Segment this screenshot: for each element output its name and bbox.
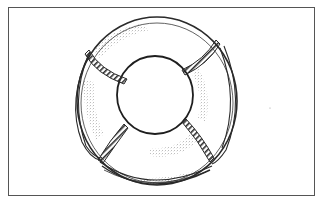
speck bbox=[269, 107, 270, 108]
strap-bottom-left bbox=[98, 124, 128, 163]
strap-top-left bbox=[85, 50, 127, 84]
strap-top-right bbox=[182, 40, 220, 75]
life-buoy-illustration bbox=[0, 0, 327, 203]
